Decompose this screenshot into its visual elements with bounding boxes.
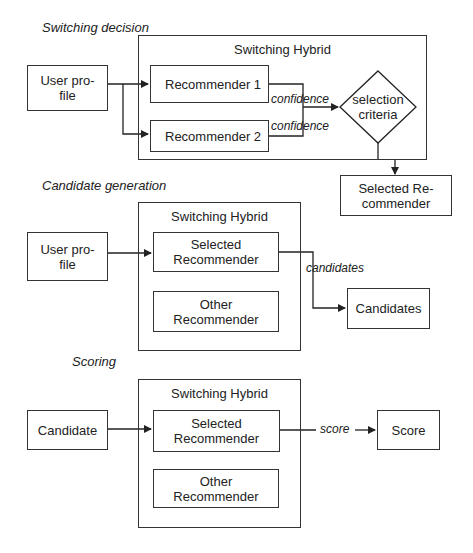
node-label: Selected Recommender [174, 416, 259, 446]
recommender-2-node: Recommender 2 [150, 120, 269, 152]
selection-criteria-node: selection criteria [340, 92, 416, 122]
node-label: User pro- file [40, 73, 94, 103]
user-profile-node: User pro- file [27, 65, 108, 111]
node-label: Candidates [356, 301, 422, 316]
score-output-node: Score [377, 410, 440, 450]
candidate-input-node: Candidate [27, 410, 108, 450]
node-label: Selected Recommender [173, 237, 258, 267]
node-label: Other Recommender [173, 297, 258, 327]
candidates-output-node: Candidates [347, 288, 430, 329]
selected-recommender-output-node: Selected Re- commender [340, 175, 452, 216]
section-label-scoring: Scoring [72, 354, 116, 369]
hybrid-title: Switching Hybrid [139, 386, 300, 401]
node-label: Selected Re- commender [358, 181, 433, 211]
section-label-candidate-generation: Candidate generation [42, 178, 166, 193]
node-label: selection criteria [352, 92, 403, 122]
hybrid-title: Switching Hybrid [139, 209, 300, 224]
edge-label-confidence-2: confidence [271, 119, 329, 133]
node-label: User pro- file [40, 242, 94, 272]
edge-label-score: score [320, 422, 349, 436]
node-label: Candidate [38, 423, 97, 438]
node-label: Recommender 2 [165, 129, 261, 144]
node-label: Score [392, 423, 426, 438]
node-label: Other Recommender [173, 474, 258, 504]
selected-recommender-node: Selected Recommender [153, 232, 279, 272]
edge-label-confidence-1: confidence [271, 92, 329, 106]
user-profile-node: User pro- file [27, 232, 108, 281]
recommender-1-node: Recommender 1 [150, 65, 269, 103]
edge-label-candidates: candidates [306, 261, 364, 275]
node-label: Recommender 1 [165, 77, 261, 92]
other-recommender-node: Other Recommender [153, 469, 279, 508]
other-recommender-node: Other Recommender [153, 291, 279, 332]
selected-recommender-node: Selected Recommender [153, 410, 280, 452]
section-label-switching-decision: Switching decision [42, 20, 149, 35]
hybrid-title: Switching Hybrid [139, 42, 426, 57]
